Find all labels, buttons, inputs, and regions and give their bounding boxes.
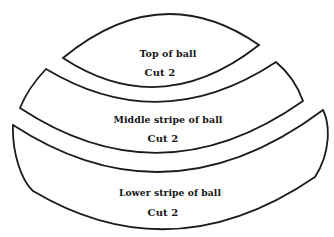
piece-top-of-ball: Top of ball Cut 2 xyxy=(63,14,259,87)
pattern-canvas: Top of ball Cut 2 Middle stripe of ball … xyxy=(0,0,334,237)
piece-lower-stripe-cut-instruction: Cut 2 xyxy=(148,207,179,218)
piece-lower-stripe-label: Lower stripe of ball xyxy=(119,187,221,198)
piece-top-of-ball-label: Top of ball xyxy=(140,48,197,59)
piece-middle-stripe-label: Middle stripe of ball xyxy=(114,114,223,125)
pattern-diagram: Top of ball Cut 2 Middle stripe of ball … xyxy=(0,0,334,237)
piece-middle-stripe-cut-instruction: Cut 2 xyxy=(148,133,179,144)
piece-top-of-ball-cut-instruction: Cut 2 xyxy=(145,67,176,78)
